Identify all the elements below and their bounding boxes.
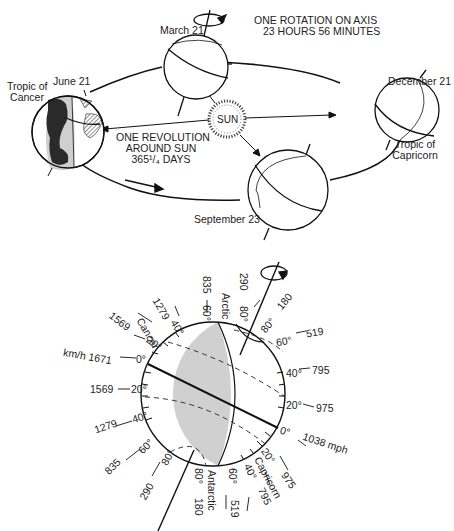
- lat-label-80n: 80°: [238, 306, 249, 322]
- tropic-capricorn-label-line2: Capricorn: [390, 150, 440, 161]
- revolution-label-line3: 365¹/₄ DAYS: [116, 154, 206, 165]
- lat-label-20s-left: 20°: [131, 384, 147, 395]
- speed-label-20n-right: 975: [316, 403, 334, 414]
- date-june-label: June 21: [53, 76, 90, 87]
- rotation-label-line2: 23 HOURS 56 MINUTES: [263, 26, 380, 37]
- lat-label-80s-right: 80°: [193, 468, 204, 484]
- note-antarctic: Antarctic: [206, 470, 217, 511]
- speed-label-20s-left: 1569: [90, 384, 113, 395]
- lat-label-0-left: 0°: [136, 354, 146, 365]
- sun-label: SUN: [217, 114, 238, 125]
- speed-label-80n: 290: [238, 273, 249, 291]
- lat-label-20n-right: 20°: [286, 400, 302, 411]
- orbit-direction-arrow: [125, 180, 163, 192]
- date-september-label: September 23: [194, 214, 260, 225]
- date-december-label: December 21: [388, 76, 451, 87]
- lat-label-60n: 60°: [201, 305, 212, 321]
- speed-label-80s-right: 180: [193, 498, 204, 516]
- speed-label-40n-right: 795: [312, 365, 330, 376]
- globe-september: [248, 144, 328, 240]
- speed-label-60n: 835: [201, 276, 212, 294]
- lat-label-60s-right: 60°: [227, 468, 238, 484]
- lat-label-40n-right: 40°: [286, 368, 302, 379]
- note-arctic: Arctic: [220, 293, 231, 319]
- tropic-cancer-label-line2: Cancer: [7, 92, 47, 103]
- date-march-label: March 21: [160, 25, 204, 36]
- speed-label-60s-right: 519: [229, 500, 240, 518]
